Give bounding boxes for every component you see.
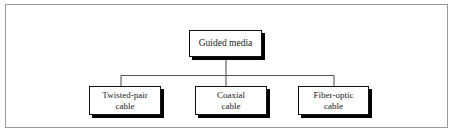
node-guided-media-label: Guided media	[196, 38, 256, 49]
node-twisted-pair-cable: Twisted-pair cable	[89, 86, 161, 115]
node-fiber-optic-cable: Fiber-optic cable	[298, 86, 369, 115]
guided-media-diagram: Guided media Twisted-pair cable Coaxial …	[0, 0, 457, 133]
node-guided-media: Guided media	[189, 30, 262, 57]
node-coaxial-cable: Coaxial cable	[195, 86, 267, 115]
node-twisted-pair-cable-label: Twisted-pair cable	[99, 90, 150, 110]
node-fiber-optic-cable-label: Fiber-optic cable	[311, 90, 357, 110]
node-coaxial-cable-label: Coaxial cable	[214, 90, 248, 110]
